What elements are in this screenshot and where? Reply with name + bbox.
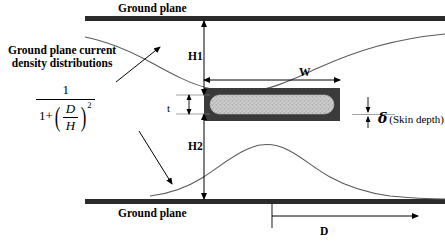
current-density-formula: 1 1+( D H )2 (36, 82, 95, 134)
label-distance: D (320, 225, 328, 238)
formula-inner-denominator: H (63, 118, 78, 134)
label-h2: H2 (188, 140, 203, 153)
ground-plane-top-label: Ground plane (118, 2, 187, 15)
formula-numerator: 1 (36, 82, 95, 99)
label-thickness: t (167, 102, 170, 114)
ground-plane-bottom-label: Ground plane (118, 207, 187, 220)
formula-denominator-lead: 1+ (39, 108, 53, 123)
leader-arrow-lower (139, 131, 172, 184)
formula-paren-close: ) (81, 106, 87, 130)
current-density-annotation: Ground plane current density distributio… (8, 44, 116, 70)
ground-plane-bottom-bar (85, 199, 445, 204)
ground-plane-top-bar (85, 16, 445, 21)
formula-inner-numerator: D (63, 101, 78, 117)
formula-exponent: 2 (87, 100, 91, 110)
annotation-line-1: Ground plane current (8, 44, 116, 57)
label-h1: H1 (188, 50, 203, 63)
annotation-line-2: density distributions (8, 57, 116, 70)
label-skin-depth: δ(Skin depth) (378, 111, 444, 127)
label-width: W (299, 66, 311, 79)
cross-section-diagram: Ground plane Ground plane Ground plane c… (0, 0, 445, 247)
formula-paren-open: ( (55, 106, 61, 130)
upper-current-density-curve (85, 34, 445, 92)
delta-symbol: δ (378, 110, 387, 126)
skin-depth-text: (Skin depth) (389, 113, 444, 125)
lower-current-density-curve (150, 145, 445, 199)
conductor-inner-core (210, 95, 334, 114)
leader-arrow-upper (116, 47, 160, 82)
